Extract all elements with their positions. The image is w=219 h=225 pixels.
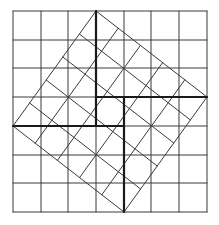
outer-square-grid <box>13 11 207 212</box>
diagram-canvas <box>0 0 219 225</box>
pinwheel-grid-diagram <box>0 0 219 225</box>
thick-pinwheel-lines <box>13 11 207 212</box>
tilted-square-grid <box>13 11 207 212</box>
